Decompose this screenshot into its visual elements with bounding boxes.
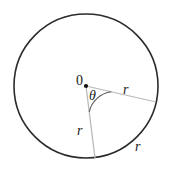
radius-label-upper: r (123, 83, 128, 97)
center-point-dot (84, 84, 88, 88)
theta-angle-label: θ (89, 89, 96, 103)
circle-diagram-canvas (0, 0, 170, 172)
geometry-figure: 0 θ r r r (0, 0, 170, 172)
radius-label-arc: r (135, 140, 140, 154)
radius-label-lower: r (77, 124, 82, 138)
center-label: 0 (76, 74, 83, 88)
